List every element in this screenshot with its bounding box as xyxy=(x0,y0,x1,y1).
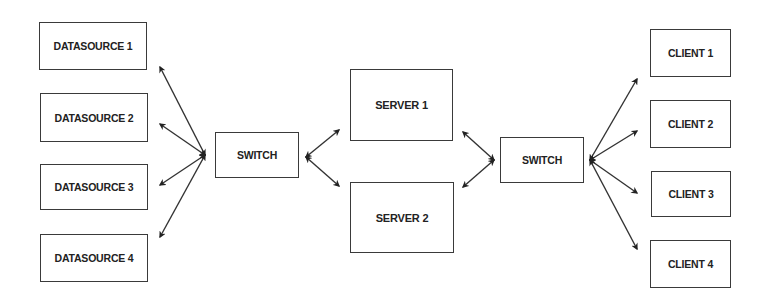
arrow-switch2-client3 xyxy=(590,160,637,193)
switch-1-node: SWITCH xyxy=(215,132,299,178)
switch-2-label: SWITCH xyxy=(522,154,562,166)
arrow-switch2-client2 xyxy=(590,131,637,160)
client-1-node: CLIENT 1 xyxy=(650,29,731,77)
client-1-label: CLIENT 1 xyxy=(668,47,713,59)
switch-1-label: SWITCH xyxy=(237,149,277,161)
arrow-switch1-server2 xyxy=(306,157,339,186)
datasource-3-label: DATASOURCE 3 xyxy=(55,181,134,193)
arrow-switch1-datasource4 xyxy=(160,155,205,237)
arrow-switch1-datasource1 xyxy=(160,67,205,155)
datasource-3-node: DATASOURCE 3 xyxy=(40,164,148,210)
arrow-server2-switch2 xyxy=(463,160,494,187)
arrow-switch1-datasource2 xyxy=(160,124,205,155)
server-2-label: SERVER 2 xyxy=(376,212,429,224)
datasource-2-node: DATASOURCE 2 xyxy=(40,93,148,142)
arrow-switch2-client4 xyxy=(590,160,637,249)
client-2-label: CLIENT 2 xyxy=(668,118,713,130)
datasource-1-label: DATASOURCE 1 xyxy=(54,40,133,52)
arrow-server1-switch2 xyxy=(463,132,494,160)
client-2-node: CLIENT 2 xyxy=(650,100,731,148)
datasource-1-node: DATASOURCE 1 xyxy=(39,22,147,70)
arrow-switch2-client1 xyxy=(590,79,637,160)
datasource-4-label: DATASOURCE 4 xyxy=(55,252,134,264)
client-3-node: CLIENT 3 xyxy=(651,171,731,217)
arrow-switch1-datasource3 xyxy=(160,155,205,185)
datasource-4-node: DATASOURCE 4 xyxy=(40,234,148,282)
server-1-node: SERVER 1 xyxy=(350,69,453,141)
client-4-label: CLIENT 4 xyxy=(668,258,713,270)
network-diagram: DATASOURCE 1 DATASOURCE 2 DATASOURCE 3 D… xyxy=(0,0,773,307)
switch-2-node: SWITCH xyxy=(500,137,584,183)
client-3-label: CLIENT 3 xyxy=(668,188,713,200)
server-1-label: SERVER 1 xyxy=(375,99,428,111)
datasource-2-label: DATASOURCE 2 xyxy=(55,112,134,124)
arrow-switch1-server1 xyxy=(306,130,339,157)
client-4-node: CLIENT 4 xyxy=(650,240,731,288)
server-2-node: SERVER 2 xyxy=(350,182,454,253)
